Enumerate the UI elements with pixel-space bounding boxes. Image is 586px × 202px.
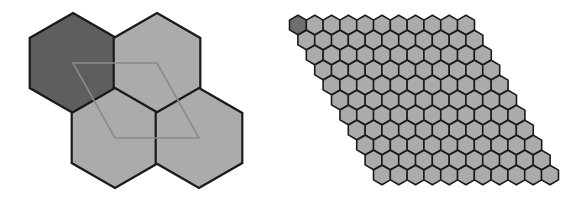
small-hexagon	[390, 165, 407, 185]
small-hexagon	[441, 165, 458, 185]
small-hexagon	[491, 165, 508, 185]
small-hexagon	[508, 165, 525, 185]
small-hexagon	[407, 165, 424, 185]
small-hexagon	[374, 165, 391, 185]
small-hexagon	[424, 165, 441, 185]
small-hexagon	[542, 165, 559, 185]
hexagon-tiling-diagram	[0, 0, 586, 202]
small-hexagon-rhombus-grid	[290, 15, 559, 185]
small-hexagon	[458, 165, 475, 185]
large-hexagon-cell	[30, 13, 243, 188]
small-hexagon	[525, 165, 542, 185]
small-hexagon	[474, 165, 491, 185]
